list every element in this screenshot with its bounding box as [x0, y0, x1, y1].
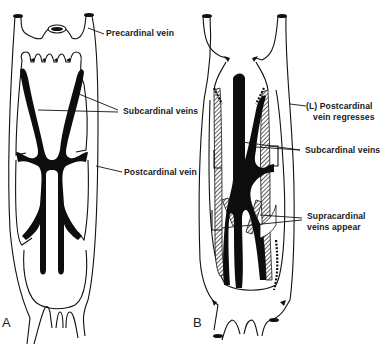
panel-letter-b: B [193, 315, 202, 330]
label-subcardinal-veins-b: Subcardinal veins [305, 145, 380, 155]
label-subcardinal-veins-a: Subcardinal veins [123, 106, 198, 116]
label-precardinal-vein: Precardinal vein [106, 28, 174, 38]
label-supracardinal-line2: veins appear [307, 222, 361, 232]
panel-letter-a: A [2, 315, 11, 330]
label-postcardinal-regresses-line2: vein regresses [313, 112, 375, 122]
label-supracardinal-line1: Supracardinal [307, 211, 366, 221]
label-postcardinal-vein: Postcardinal vein [124, 167, 197, 177]
label-postcardinal-regresses-line1: (L) Postcardinal [306, 101, 373, 111]
